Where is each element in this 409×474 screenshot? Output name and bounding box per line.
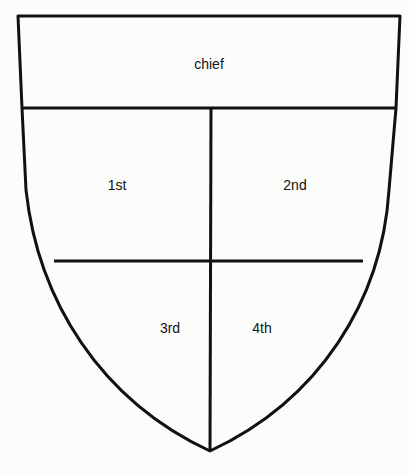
vertical-divider [210, 108, 211, 451]
first-quarter-label: 1st [108, 177, 127, 193]
fourth-quarter-label: 4th [252, 320, 271, 336]
third-quarter-label: 3rd [160, 320, 180, 336]
chief-label: chief [194, 56, 224, 72]
second-quarter-label: 2nd [283, 177, 306, 193]
